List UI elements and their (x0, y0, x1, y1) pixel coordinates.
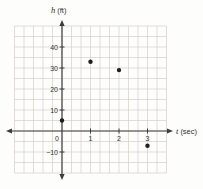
data-point (60, 118, 64, 122)
grid-lines (15, 26, 167, 173)
x-axis-title: t(sec) (176, 126, 198, 136)
x-tick-label: 3 (146, 135, 150, 142)
y-axis-title: h(ft) (51, 5, 67, 15)
x-tick-label: 1 (89, 135, 93, 142)
y-tick-label: −10 (46, 149, 58, 156)
y-tick-label: 30 (50, 65, 58, 72)
x-axis-variable: t (176, 126, 179, 136)
data-point (117, 68, 121, 72)
y-axis-up-arrow-icon (59, 20, 64, 26)
y-tick-label: 10 (50, 107, 58, 114)
y-axis-down-arrow-icon (59, 174, 64, 180)
scatter-plot-figure: 40302010−101230 h(ft) t(sec) (0, 0, 203, 189)
x-tick-label: 2 (117, 135, 121, 142)
y-tick-label: 20 (50, 86, 58, 93)
x-axis-left-arrow-icon (6, 128, 12, 133)
y-axis-variable: h (51, 5, 55, 15)
x-axis-right-arrow-icon (167, 128, 173, 133)
y-tick-label: 40 (50, 44, 58, 51)
origin-label: 0 (55, 135, 59, 142)
data-point (145, 144, 149, 148)
x-axis-unit: (sec) (180, 127, 197, 136)
axes (6, 20, 173, 180)
y-axis-unit: (ft) (57, 6, 67, 15)
chart-canvas: 40302010−101230 h(ft) t(sec) (0, 0, 203, 189)
data-points (60, 60, 150, 148)
data-point (88, 60, 92, 64)
